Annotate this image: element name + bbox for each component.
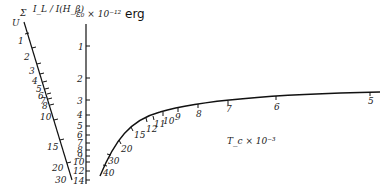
svg-text:1: 1 (18, 36, 24, 46)
middle-scale-symbol: ε̄₀ × 10⁻¹² (76, 9, 122, 19)
middle-scale-unit: erg (125, 7, 145, 21)
svg-text:10: 10 (163, 116, 175, 126)
svg-text:4: 4 (76, 110, 83, 120)
svg-text:8: 8 (42, 101, 48, 111)
svg-text:30: 30 (108, 156, 120, 166)
svg-text:30: 30 (55, 175, 67, 185)
curve-ticks (103, 92, 370, 166)
left-scale-line (24, 22, 72, 180)
svg-text:1: 1 (78, 42, 84, 52)
svg-text:20: 20 (120, 144, 133, 154)
curve-axis-label: T_c × 10⁻³ (227, 136, 276, 147)
svg-text:15: 15 (47, 142, 59, 152)
left-origin-label: U (12, 18, 20, 28)
svg-text:6: 6 (274, 102, 280, 112)
left-scale-sigma: Σ (19, 8, 27, 18)
svg-text:3: 3 (29, 66, 35, 76)
svg-text:20: 20 (51, 163, 64, 173)
svg-text:40: 40 (102, 168, 115, 178)
svg-text:14: 14 (73, 176, 85, 186)
svg-text:10: 10 (40, 112, 52, 122)
middle-scale-labels: 1 2 3 4 5 6 7 8 9 10 12 14 (73, 42, 85, 186)
svg-text:9: 9 (175, 112, 181, 122)
svg-text:2: 2 (23, 52, 30, 62)
svg-text:5: 5 (368, 96, 374, 106)
svg-text:7: 7 (226, 104, 232, 114)
svg-text:8: 8 (196, 109, 202, 119)
svg-text:2: 2 (76, 74, 83, 84)
svg-text:3: 3 (77, 96, 83, 106)
svg-text:12: 12 (73, 166, 85, 176)
left-scale-labels: 1 2 3 4 5 6 7 8 10 15 20 30 (18, 36, 67, 185)
nomogram: U Σ I_L / I(H_β) 1 2 3 4 5 6 7 8 10 15 2… (0, 0, 391, 194)
svg-text:15: 15 (134, 130, 146, 140)
